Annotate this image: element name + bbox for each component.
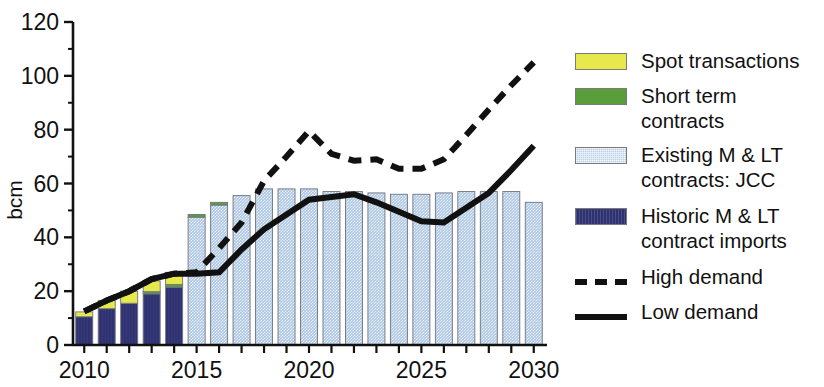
bar-segment [121, 303, 138, 345]
chart-figure: 02040608010012020102015202020252030bcm S… [0, 0, 824, 387]
chart-svg: 02040608010012020102015202020252030bcm [0, 0, 570, 387]
legend-item-low-demand: Low demand [575, 299, 824, 325]
legend-label-existing-m-lt-contracts-jcc: Existing M & LT contracts: JCC [633, 142, 783, 192]
bar-segment [480, 192, 497, 345]
bar-segment [98, 309, 115, 345]
legend-label-high-demand: High demand [633, 264, 763, 289]
legend-swatch-historic-m-lt-contract-imports [575, 203, 633, 229]
y-tick-label: 100 [21, 63, 59, 89]
bar-segment [211, 202, 228, 205]
x-tick-label: 2015 [171, 357, 222, 383]
x-tick-label: 2030 [508, 357, 559, 383]
bar-segment [525, 202, 542, 345]
legend-item-historic-m-lt-contract-imports: Historic M & LT contract imports [575, 203, 824, 253]
x-tick-label: 2010 [59, 357, 110, 383]
y-tick-label: 0 [46, 332, 59, 358]
legend-swatch-short-term-contracts [575, 83, 633, 109]
bar-segment [256, 189, 273, 345]
bar-segment [233, 196, 250, 345]
bar-segment [76, 312, 93, 317]
bar-segment [503, 192, 520, 345]
legend-swatch-low-demand-solid-line [575, 299, 633, 325]
bar-segment [301, 189, 318, 345]
legend-label-spot-transactions: Spot transactions [633, 48, 799, 73]
y-tick-label: 60 [33, 171, 59, 197]
y-tick-label: 20 [33, 278, 59, 304]
bar-segment [188, 217, 205, 345]
x-tick-label: 2025 [396, 357, 447, 383]
bar-segment [76, 317, 93, 345]
legend-label-low-demand: Low demand [633, 299, 758, 324]
legend-item-short-term-contracts: Short term contracts [575, 83, 824, 133]
bar-segment [188, 214, 205, 217]
bar-segment [143, 294, 160, 345]
legend-swatch-spot-transactions [575, 48, 633, 74]
bars-group [76, 189, 543, 345]
x-tick-label: 2020 [283, 357, 334, 383]
legend-item-spot-transactions: Spot transactions [575, 48, 824, 74]
y-axis-title: bcm [3, 180, 26, 220]
legend-item-existing-m-lt-contracts-jcc: Existing M & LT contracts: JCC [575, 142, 824, 192]
legend-label-historic-m-lt-contract-imports: Historic M & LT contract imports [633, 203, 787, 253]
plot-area: 02040608010012020102015202020252030bcm [0, 0, 570, 387]
bar-segment [323, 192, 340, 345]
legend-label-short-term-contracts: Short term contracts [633, 83, 824, 133]
bar-segment [368, 193, 385, 345]
legend-swatch-high-demand-dashed-line [575, 264, 633, 290]
y-tick-label: 120 [21, 9, 59, 35]
y-tick-label: 40 [33, 224, 59, 250]
legend-item-high-demand: High demand [575, 264, 824, 290]
legend-swatch-existing-m-lt-contracts-jcc [575, 142, 633, 168]
bar-segment [345, 192, 362, 345]
y-tick-label: 80 [33, 117, 59, 143]
bar-segment [166, 287, 183, 345]
chart-legend: Spot transactions Short term contracts E… [575, 48, 824, 334]
